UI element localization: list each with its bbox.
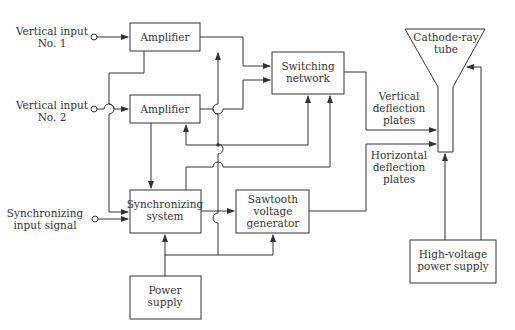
svg-text:Vertical input: Vertical input [15, 99, 89, 111]
svg-text:power supply: power supply [417, 260, 489, 272]
power-supply-block: Power supply [130, 276, 201, 319]
svg-text:Synchronizing: Synchronizing [7, 207, 84, 219]
svg-text:generator: generator [247, 217, 301, 229]
svg-text:Sawtooth: Sawtooth [248, 193, 299, 205]
svg-text:No. 2: No. 2 [38, 111, 67, 123]
vertical-input-1-label: Vertical input No. 1 [15, 25, 89, 49]
high-voltage-supply-block: High-voltage power supply [410, 240, 496, 283]
svg-text:High-voltage: High-voltage [419, 248, 488, 260]
svg-text:Cathode-ray: Cathode-ray [413, 31, 478, 43]
svg-text:voltage: voltage [252, 205, 292, 217]
synchronizing-system-block: Synchronizing system [127, 190, 204, 233]
svg-text:Synchronizing: Synchronizing [127, 198, 204, 210]
horizontal-deflection-plates-label: Horizontal deflection plates [371, 149, 428, 185]
vin1-terminal [91, 34, 97, 40]
svg-text:Vertical input: Vertical input [15, 25, 89, 37]
switching-network-block: Switching network [272, 52, 344, 94]
svg-text:tube: tube [434, 43, 458, 55]
svg-text:Switching: Switching [281, 60, 335, 72]
svg-text:Vertical: Vertical [378, 90, 421, 102]
sawtooth-generator-block: Sawtooth voltage generator [236, 190, 309, 233]
vertical-deflection-plates-label: Vertical deflection plates [373, 90, 426, 126]
svg-text:Horizontal: Horizontal [371, 149, 428, 161]
sync-terminal [92, 216, 98, 222]
svg-text:plates: plates [383, 173, 415, 185]
oscilloscope-block-diagram: Vertical input No. 1 Vertical input No. … [0, 0, 515, 330]
svg-text:No. 1: No. 1 [38, 37, 67, 49]
svg-text:input signal: input signal [13, 219, 77, 231]
vin2-terminal [91, 106, 97, 112]
amplifier-1-block: Amplifier [130, 23, 200, 51]
svg-text:Amplifier: Amplifier [139, 31, 190, 43]
svg-text:deflection: deflection [373, 161, 426, 173]
amplifier-2-block: Amplifier [130, 95, 200, 123]
svg-text:network: network [286, 72, 331, 84]
sync-input-label: Synchronizing input signal [7, 207, 84, 231]
svg-text:system: system [146, 210, 183, 222]
svg-text:Power: Power [148, 284, 182, 296]
svg-text:deflection: deflection [373, 102, 426, 114]
svg-text:plates: plates [383, 114, 415, 126]
svg-text:Amplifier: Amplifier [139, 103, 190, 115]
svg-text:supply: supply [148, 296, 183, 308]
vertical-input-2-label: Vertical input No. 2 [15, 99, 89, 123]
